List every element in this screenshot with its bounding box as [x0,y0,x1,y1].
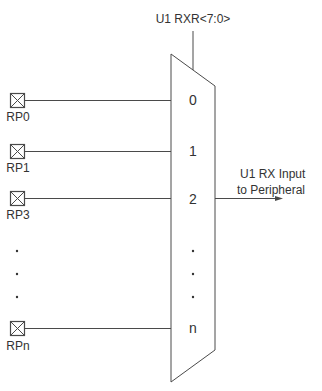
mux-ellipsis-dot [192,273,194,275]
mux-ellipsis-dot [192,296,194,298]
pin-rp1: RP1 [6,145,171,176]
mux-ellipsis-dot [192,250,194,252]
mux-diagram: U1 RXR<7:0> 0 1 2 n RP0 RP1 RP3 [0,0,322,391]
pin-ellipsis-dot [16,273,18,275]
pin-rpn: RPn [6,322,171,354]
output-label-line2: to Peripheral [237,183,305,197]
mux-input-1-label: 1 [189,143,197,159]
output-label-line1: U1 RX Input [240,167,306,181]
pin-label: RP1 [6,161,30,175]
pin-label: RP3 [6,208,30,222]
mux-input-0-label: 0 [189,92,197,108]
pin-rp3: RP3 [6,192,171,223]
control-label: U1 RXR<7:0> [156,12,231,26]
pin-ellipsis-dot [16,296,18,298]
pin-rp0: RP0 [6,94,171,125]
pin-ellipsis-dot [16,250,18,252]
pin-label: RPn [6,339,29,353]
mux-input-2-label: 2 [189,191,197,207]
mux-input-n-label: n [189,320,197,336]
pin-label: RP0 [6,110,30,124]
